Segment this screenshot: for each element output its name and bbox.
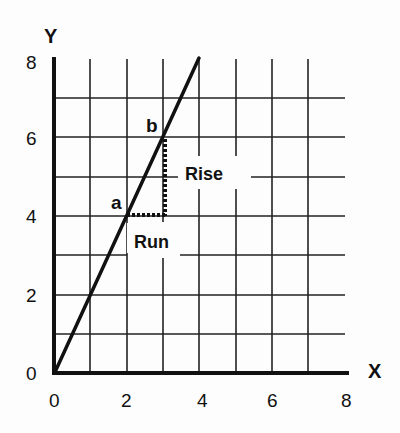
y-tick-4: 4	[26, 206, 37, 227]
slope-diagram: Y X 8 6 4 2 0 0 2 4 6 8 a b Rise Run	[0, 0, 400, 433]
point-a-label: a	[111, 192, 122, 213]
run-label: Run	[134, 232, 169, 252]
chart-canvas: Y X 8 6 4 2 0 0 2 4 6 8 a b Rise Run	[0, 0, 400, 433]
x-tick-0: 0	[49, 390, 60, 411]
y-tick-6: 6	[26, 128, 37, 149]
x-tick-8: 8	[341, 390, 352, 411]
y-tick-2: 2	[26, 285, 37, 306]
x-tick-4: 4	[197, 390, 208, 411]
y-tick-0: 0	[26, 363, 37, 384]
point-b-label: b	[146, 115, 158, 136]
y-tick-8: 8	[26, 52, 37, 73]
x-tick-6: 6	[267, 390, 278, 411]
x-tick-2: 2	[121, 390, 132, 411]
grid	[54, 59, 345, 373]
rise-label: Rise	[185, 164, 223, 184]
x-axis-label: X	[368, 360, 382, 382]
y-axis-label: Y	[44, 25, 58, 47]
